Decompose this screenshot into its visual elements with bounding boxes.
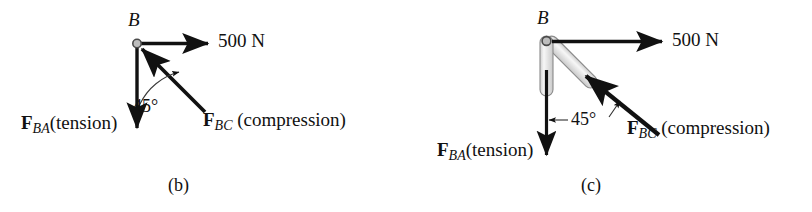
node-label-c: B <box>537 8 549 27</box>
angle-label-c: 45° <box>571 110 596 128</box>
joint-pin-c <box>542 37 551 46</box>
force-subscript-ba-b: BA <box>33 121 50 136</box>
joint-pin-b <box>133 39 141 47</box>
free-body-diagram-c: B 500 N 45° FBA(tension) FBC (compressio… <box>406 0 812 212</box>
force-subscript-bc-b: BC <box>215 118 233 133</box>
diagram-c-graphics <box>406 0 812 212</box>
angle-label-b: 45° <box>133 97 158 115</box>
force-qualifier-tension-c: (tension) <box>466 139 534 160</box>
panel-caption-c: (c) <box>581 176 601 194</box>
force-label-fbc-b: FBC (compression) <box>203 110 346 133</box>
force-label-fba-c: FBA(tension) <box>437 140 533 163</box>
figure-canvas: B 500 N 45° FBA(tension) FBC (compressio… <box>0 0 812 212</box>
force-qualifier-compression-c: (compression) <box>657 117 770 138</box>
force-qualifier-tension-b: (tension) <box>50 112 118 133</box>
panel-caption-b: (b) <box>168 176 189 194</box>
diagram-b-graphics <box>0 0 406 212</box>
node-label-b: B <box>128 10 140 29</box>
load-label-500n-c: 500 N <box>672 30 719 49</box>
load-label-500n-b: 500 N <box>218 31 265 50</box>
force-label-fbc-c: FBC (compression) <box>627 118 770 141</box>
free-body-diagram-b: B 500 N 45° FBA(tension) FBC (compressio… <box>0 0 406 212</box>
force-subscript-bc-c: BC <box>639 126 657 141</box>
angle-leader-right-c <box>609 101 620 117</box>
force-subscript-ba-c: BA <box>449 148 466 163</box>
force-qualifier-compression-b: (compression) <box>233 109 346 130</box>
force-label-fba-b: FBA(tension) <box>21 113 117 136</box>
